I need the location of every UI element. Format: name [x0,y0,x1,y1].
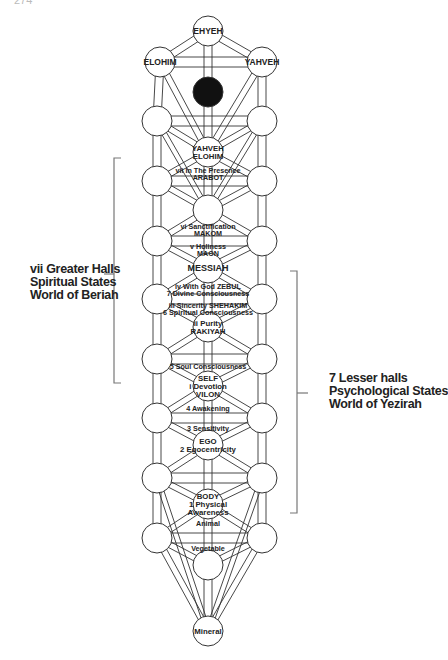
label-self: SELFi DevotionVILON [189,374,227,399]
right-bracket [290,271,297,513]
node-left-7 [142,463,172,493]
right-bracket-label: 7 Lesser halls Psychological States Worl… [329,372,448,411]
path-label-shehakim: iii Sincerity SHEHAKIM6 Spiritual Consci… [163,301,253,317]
node-left-1 [142,106,172,136]
right-label-line-3: World of Yezirah [329,398,448,411]
label-top-right: YAHVEH [245,57,280,67]
label-body: BODY1 PhysicalAwareness [187,492,229,517]
dark-node [193,77,223,107]
label-top-left: ELOHIM [143,57,176,67]
node-right-2 [247,166,277,196]
path-label-sensitivity: 3 Sensitivity [187,424,229,433]
node-left-2 [142,166,172,196]
node-left-8 [142,523,172,553]
node-left-3 [142,226,172,256]
path-label-animal: Animal [196,519,220,528]
label-ego: EGO2 Egocentricity [180,437,237,454]
path-label-vegetable: Vegetable [191,544,225,553]
node-right-6 [247,403,277,433]
label-mineral: Mineral [194,627,221,636]
path-label-zebul: iv With God ZEBUL7 Divine Consciousness [167,282,250,298]
path-label-soul: 5 Soul Consciousness [170,362,247,371]
node-right-1 [247,106,277,136]
node-center-blank-1 [193,195,223,225]
path-label-maon: v HolinessMAON [190,242,226,258]
left-label-line-3: World of Beriah [30,289,96,302]
label-crown: EHYEH [193,26,222,36]
path-label-awakening: 4 Awakening [186,404,230,413]
label-yahveh-elohim: YAHVEHELOHIM [192,144,224,161]
node-left-6 [142,403,172,433]
path-label-arabot: vii In The PresenceARABOT [175,166,240,182]
node-right-7 [247,463,277,493]
node-right-5 [247,344,277,374]
node-center-blank-2 [193,550,223,580]
node-right-8 [247,523,277,553]
node-left-5 [142,344,172,374]
label-rakiyah: ii PurityRAKIYAH [191,319,226,336]
node-right-3 [247,226,277,256]
label-messiah: MESSIAH [187,263,228,273]
left-bracket-label: vii Greater Halls Spiritual States World… [30,263,96,302]
